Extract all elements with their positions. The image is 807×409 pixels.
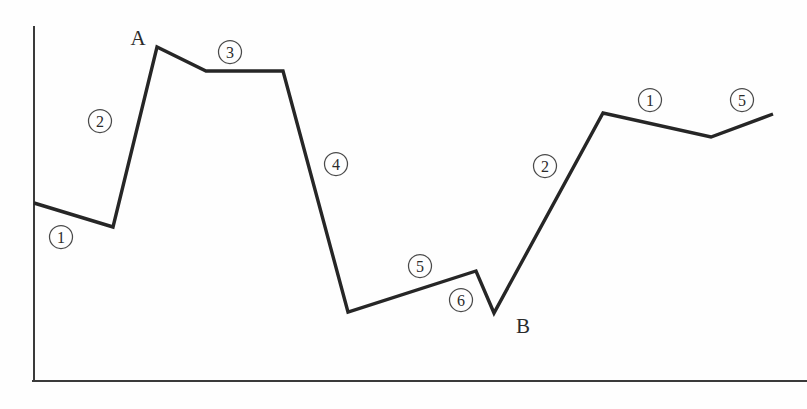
point-label-A: A	[130, 26, 146, 50]
point-label-B: B	[516, 314, 530, 338]
circled-number-text: 5	[738, 92, 746, 109]
chart-background	[0, 0, 807, 409]
line-chart-svg: 123456215 AB	[0, 0, 807, 409]
circled-number-text: 1	[57, 229, 65, 246]
circled-number-text: 5	[416, 258, 424, 275]
chart-figure: 123456215 AB	[0, 0, 807, 409]
circled-number-text: 1	[646, 92, 654, 109]
circled-number-text: 3	[226, 44, 234, 61]
circled-number-text: 6	[457, 292, 465, 309]
circled-number-text: 2	[541, 158, 549, 175]
circled-number-text: 2	[96, 113, 104, 130]
circled-number-text: 4	[332, 156, 340, 173]
